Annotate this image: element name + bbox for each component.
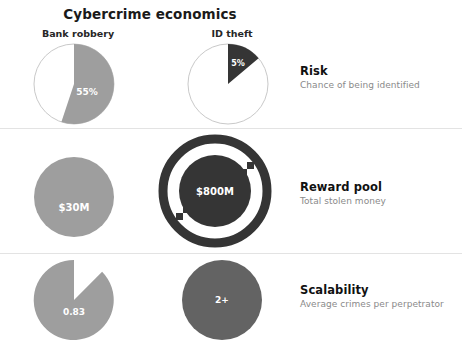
row-subtitle-scalability: Average crimes per perpetrator <box>300 299 460 309</box>
column-caption-bank-robbery: Bank robbery <box>18 28 138 39</box>
row-description-scalability: Scalability Average crimes per perpetrat… <box>300 283 460 309</box>
circle-chart-bank-robbery-reward: $30M <box>32 155 116 239</box>
row-title-risk: Risk <box>300 64 460 78</box>
pie-chart-bank-robbery-risk: 55% <box>32 42 116 126</box>
infographic-canvas: Cybercrime economics Bank robbery ID the… <box>0 0 462 356</box>
value-label-id-theft-scalability: 2+ <box>215 295 229 305</box>
row-description-risk: Risk Chance of being identified <box>300 64 460 90</box>
circle-chart-id-theft-scalability: 2+ <box>180 258 264 342</box>
row-title-reward-pool: Reward pool <box>300 180 460 194</box>
page-title: Cybercrime economics <box>0 6 300 22</box>
column-caption-id-theft: ID theft <box>172 28 292 39</box>
slice-label-bank-robbery-risk: 55% <box>76 87 98 97</box>
row-divider <box>0 128 462 129</box>
pie-chart-bank-robbery-scalability: 0.83 <box>32 258 116 342</box>
slice-label-id-theft-risk: 5% <box>231 59 245 68</box>
row-divider <box>0 253 462 254</box>
value-label-bank-robbery-scalability: 0.83 <box>63 307 85 317</box>
row-subtitle-risk: Chance of being identified <box>300 80 460 90</box>
pie-chart-id-theft-risk: 5% <box>186 42 270 126</box>
donut-chart-id-theft-reward: $800M <box>155 131 275 251</box>
row-subtitle-reward-pool: Total stolen money <box>300 196 460 206</box>
value-label-bank-robbery-reward: $30M <box>59 202 90 213</box>
row-description-reward-pool: Reward pool Total stolen money <box>300 180 460 206</box>
row-title-scalability: Scalability <box>300 283 460 297</box>
value-label-id-theft-reward: $800M <box>196 186 234 197</box>
